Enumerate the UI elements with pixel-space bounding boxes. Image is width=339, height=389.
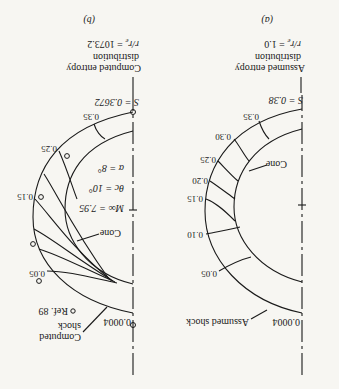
figure-stage: 0.0004 Assumed shock Cone 0.05 0.10 0.15… <box>0 0 339 389</box>
figure-rotated: 0.0004 Assumed shock Cone 0.05 0.10 0.15… <box>0 0 339 389</box>
shock-leader <box>251 310 267 319</box>
entropy-line-0.05 <box>219 257 251 271</box>
assumed-shock-label: Assumed shock <box>186 317 249 328</box>
ref-89-point <box>37 279 42 284</box>
tip-entropy-label: 0.0004 <box>273 317 301 328</box>
panel-b: 0.0004 Computed shock Ref. 89 Cone M∞ = … <box>17 14 141 375</box>
entropy-line-a <box>39 249 115 282</box>
entropy-dist-line2: distribution <box>93 52 139 63</box>
ref-89-label: Ref. 89 <box>39 306 68 317</box>
base-entropy-label: S = 0.3672 <box>95 97 139 108</box>
entropy-0.25: 0.25 <box>41 144 57 154</box>
entropy-dist-line1: Assumed entropy <box>235 63 305 74</box>
entropy-0.10: 0.10 <box>187 230 203 240</box>
caption-b: (b) <box>83 14 95 26</box>
panel-a: 0.0004 Assumed shock Cone 0.05 0.10 0.15… <box>186 14 306 375</box>
tip-entropy-label: 0.0004 <box>104 317 132 328</box>
entropy-0.35: 0.35 <box>243 112 259 122</box>
cone-angle-label: θc = 10° <box>89 183 124 194</box>
entropy-line-0.25 <box>218 161 238 181</box>
entropy-line-0.35 <box>259 121 269 139</box>
entropy-dist-line1: Computed entropy <box>66 63 141 74</box>
computed-shock-label-2: shock <box>58 321 81 332</box>
entropy-dist-line2: distribution <box>255 52 301 63</box>
ref-89-point <box>39 195 44 200</box>
caption-a: (a) <box>261 14 273 26</box>
mach-label: M∞ = 7.95 <box>79 203 125 214</box>
entropy-dist-line3: r/re = 1.0 <box>264 37 301 50</box>
computed-shock-label-1: Computed <box>39 332 81 343</box>
entropy-0.35: 0.35 <box>83 112 99 122</box>
cone-label: Cone <box>265 159 287 170</box>
ref-89-legend-marker <box>71 309 75 313</box>
ref-89-point <box>31 242 36 247</box>
entropy-line-0.35 <box>94 124 105 139</box>
base-entropy-label: S = 0.38 <box>269 95 303 106</box>
figure-svg: 0.0004 Assumed shock Cone 0.05 0.10 0.15… <box>0 0 339 389</box>
entropy-0.30: 0.30 <box>215 132 231 142</box>
ref-89-point <box>65 154 70 159</box>
entropy-line-0.15 <box>206 199 235 221</box>
entropy-0.25: 0.25 <box>200 155 216 165</box>
entropy-0.15: 0.15 <box>187 194 203 204</box>
entropy-0.20: 0.20 <box>192 176 208 186</box>
entropy-line-0.30 <box>234 139 249 161</box>
entropy-0.05: 0.05 <box>201 269 217 279</box>
alpha-label: α = 8° <box>98 163 124 174</box>
entropy-0.15: 0.15 <box>17 192 33 202</box>
cone-leader <box>249 165 267 171</box>
entropy-line-0.20 <box>210 181 235 199</box>
entropy-line-0.10 <box>206 227 240 234</box>
entropy-dist-line3: r/re = 1073.2 <box>87 37 139 50</box>
entropy-0.05: 0.05 <box>29 269 45 279</box>
cone-label: Cone <box>99 228 121 239</box>
